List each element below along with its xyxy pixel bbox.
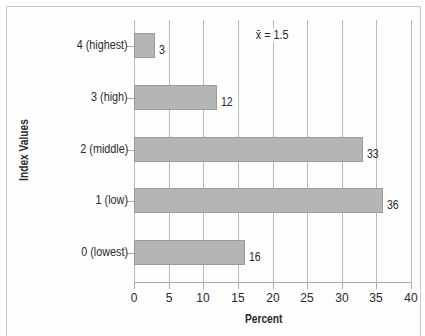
x-tick-label: 20 <box>258 291 288 305</box>
x-tick-mark <box>169 283 170 289</box>
y-tick-mark <box>127 46 134 47</box>
x-tick-mark <box>238 283 239 289</box>
x-tick-label: 5 <box>154 291 184 305</box>
bar <box>134 33 155 58</box>
x-tick-label: 15 <box>223 291 253 305</box>
x-tick-mark <box>273 283 274 289</box>
category-label: 3 (high) <box>91 90 128 104</box>
y-tick-mark <box>127 201 134 202</box>
y-tick-mark <box>127 253 134 254</box>
bar-value-label: 36 <box>387 198 399 212</box>
bar-value-label: 12 <box>221 95 233 109</box>
x-tick-mark <box>134 283 135 289</box>
bar <box>134 240 245 265</box>
y-axis-title: Index Values <box>17 119 31 181</box>
x-tick-label: 30 <box>327 291 357 305</box>
category-label: 2 (middle) <box>80 142 128 156</box>
bar <box>134 137 363 162</box>
category-label: 1 (low) <box>96 193 128 207</box>
bar-value-label: 33 <box>367 147 379 161</box>
x-tick-label: 10 <box>188 291 218 305</box>
x-tick-label: 25 <box>292 291 322 305</box>
category-label: 0 (lowest) <box>81 245 128 259</box>
bar <box>134 188 383 213</box>
x-tick-mark <box>376 283 377 289</box>
y-tick-mark <box>127 98 134 99</box>
bar <box>134 85 217 110</box>
x-tick-mark <box>411 283 412 289</box>
mean-annotation: x̄ = 1.5 <box>254 28 290 42</box>
plot-area: 312333616 <box>134 20 411 283</box>
x-tick-mark <box>203 283 204 289</box>
x-tick-mark <box>307 283 308 289</box>
bar-value-label: 16 <box>249 250 261 264</box>
x-tick-mark <box>342 283 343 289</box>
category-label: 4 (highest) <box>77 38 128 52</box>
bar-value-label: 3 <box>159 43 165 57</box>
x-tick-label: 40 <box>396 291 425 305</box>
x-axis-title: Percent <box>245 312 282 326</box>
x-tick-label: 0 <box>119 291 149 305</box>
x-tick-label: 35 <box>361 291 391 305</box>
gridline <box>411 20 412 283</box>
